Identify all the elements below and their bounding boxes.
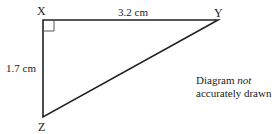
vertex-label-z: Z (38, 121, 45, 133)
right-angle-marker (43, 20, 54, 31)
vertex-label-x: X (37, 5, 46, 17)
accuracy-note: Diagram not accurately drawn (196, 74, 271, 100)
side-xy-length: 3.2 cm (118, 7, 148, 18)
triangle-figure (0, 0, 277, 134)
accuracy-note-line1: Diagram not (196, 74, 271, 87)
note-prefix: Diagram (196, 74, 237, 86)
accuracy-note-line2: accurately drawn (196, 87, 271, 100)
triangle-xyz (43, 20, 218, 117)
vertex-label-y: Y (214, 7, 223, 19)
side-xz-length: 1.7 cm (6, 63, 36, 74)
triangle-diagram: X Y Z 3.2 cm 1.7 cm Diagram not accurate… (0, 0, 277, 134)
note-emphasis: not (237, 74, 251, 86)
